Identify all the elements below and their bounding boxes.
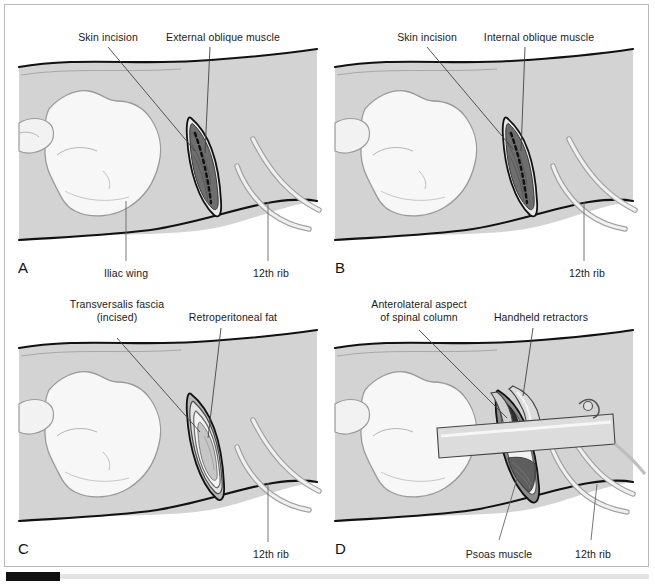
label-internal-oblique-muscle-b: Internal oblique muscle bbox=[484, 31, 594, 43]
panel-letter-c: C bbox=[18, 540, 29, 557]
label-of-spinal-column-d: of spinal column bbox=[380, 311, 457, 323]
retractor-ring-hole-d bbox=[584, 402, 593, 411]
label-skin-incision-a: Skin incision bbox=[78, 31, 138, 43]
panel-letter-b: B bbox=[335, 259, 345, 276]
panel-letter-a: A bbox=[18, 259, 28, 276]
panel-a: Skin incision External oblique muscle Il… bbox=[5, 5, 327, 286]
label-iliac-wing-a: Iliac wing bbox=[104, 267, 148, 279]
label-transversalis-fascia-incised-c: (incised) bbox=[97, 311, 138, 323]
label-12th-rib-a: 12th rib bbox=[253, 267, 289, 279]
footer-gray-rule bbox=[60, 574, 649, 579]
panel-b: Skin incision Internal oblique muscle 12… bbox=[327, 5, 649, 286]
panel-d: Anterolateral aspect of spinal column Ha… bbox=[327, 286, 649, 567]
label-transversalis-fascia-c: Transversalis fascia bbox=[70, 298, 164, 310]
label-12th-rib-c: 12th rib bbox=[253, 548, 289, 560]
figure-frame: Skin incision External oblique muscle Il… bbox=[4, 4, 649, 567]
leader-12th-rib-d bbox=[591, 484, 597, 540]
label-12th-rib-d: 12th rib bbox=[575, 548, 611, 560]
label-external-oblique-muscle-a: External oblique muscle bbox=[166, 31, 280, 43]
label-skin-incision-b: Skin incision bbox=[397, 31, 457, 43]
label-anterolateral-aspect-d: Anterolateral aspect bbox=[371, 298, 466, 310]
label-12th-rib-b: 12th rib bbox=[569, 267, 605, 279]
label-retroperitoneal-fat-c: Retroperitoneal fat bbox=[189, 311, 277, 323]
panel-b-illustration bbox=[327, 5, 649, 286]
footer-black-bar bbox=[6, 572, 60, 581]
label-psoas-muscle-d: Psoas muscle bbox=[466, 548, 533, 560]
panel-c: Transversalis fascia (incised) Retroperi… bbox=[5, 286, 327, 567]
panel-c-illustration bbox=[5, 286, 327, 567]
panel-d-illustration bbox=[327, 286, 649, 567]
panel-letter-d: D bbox=[335, 540, 346, 557]
panel-a-illustration bbox=[5, 5, 327, 286]
label-handheld-retractors-d: Handheld retractors bbox=[494, 311, 588, 323]
